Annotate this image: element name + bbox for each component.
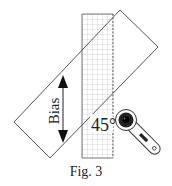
bias-label: Bias <box>46 98 62 125</box>
angle-label: 45° <box>91 115 116 135</box>
figure-caption: Fig. 3 <box>0 164 172 180</box>
grid-ruler <box>82 14 113 158</box>
rotary-cutter-icon <box>116 110 163 157</box>
bias-cutting-diagram: Bias 45° Fig. 3 <box>0 0 172 186</box>
diagram-canvas: Bias 45° <box>0 0 172 186</box>
